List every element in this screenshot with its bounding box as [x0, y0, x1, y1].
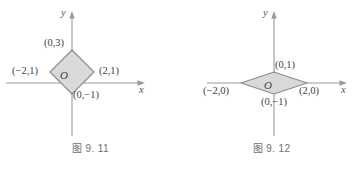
figure-caption-right: 图 9. 12: [181, 140, 362, 155]
vertex-label-0-neg1: (0,−1): [261, 97, 287, 108]
plot-area-right: (0,1) (2,0) (0,−1) (−2,0) y x O: [181, 0, 362, 136]
vertex-label-2-1: (2,1): [99, 66, 119, 77]
diamond-shape-left: [50, 50, 94, 94]
origin-label: O: [60, 70, 68, 81]
y-axis-label: y: [263, 8, 268, 19]
y-axis-label: y: [61, 8, 66, 19]
x-axis-label: x: [139, 85, 144, 96]
figure-9-11: (0,3) (2,1) (0,−1) (−2,1) y x O 图 9. 11: [0, 0, 181, 170]
y-axis-arrowhead: [271, 11, 276, 19]
plot-area-left: (0,3) (2,1) (0,−1) (−2,1) y x O: [0, 0, 181, 136]
vertex-label-0-3: (0,3): [44, 38, 64, 49]
vertex-label-0-1: (0,1): [275, 60, 295, 71]
vertex-label-0-neg1: (0,−1): [73, 90, 99, 101]
y-axis-arrowhead: [69, 11, 74, 19]
vertex-label-2-0: (2,0): [299, 86, 319, 97]
figure-caption-left: 图 9. 11: [0, 140, 181, 155]
vertex-label-neg2-0: (−2,0): [203, 86, 229, 97]
coordinate-plot-right: [181, 0, 362, 136]
diamond-shape-right: [241, 72, 307, 94]
figure-9-12: (0,1) (2,0) (0,−1) (−2,0) y x O 图 9. 12: [181, 0, 362, 170]
x-axis-label: x: [341, 85, 346, 96]
origin-label: O: [264, 80, 272, 91]
vertex-label-neg2-1: (−2,1): [12, 66, 38, 77]
